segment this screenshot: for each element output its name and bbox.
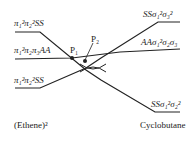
p2-pointer-line: [85, 43, 93, 60]
point-p1-label: P₁: [70, 46, 78, 55]
right-caption: Cyclobutane: [140, 121, 186, 130]
left-state-ss-lower-label: π₁²π₂²SS: [14, 76, 44, 85]
point-p1-marker: [70, 56, 74, 60]
right-state-ss-lower-label: SSσ₁²σ₂²: [151, 100, 181, 109]
left-state-aa-label: π₁²π₂π₃AA: [14, 46, 51, 55]
point-p2-label: P₂: [91, 35, 99, 44]
right-state-ss-upper-label: SSσ₁²σ₃²: [143, 10, 173, 19]
left-state-ss-upper-label: π₁²π₂²SS: [14, 19, 44, 28]
right-state-aa-label: AAσ₁²σ₂σ₃: [141, 38, 177, 47]
left-caption: (Ethene)²: [14, 121, 48, 130]
